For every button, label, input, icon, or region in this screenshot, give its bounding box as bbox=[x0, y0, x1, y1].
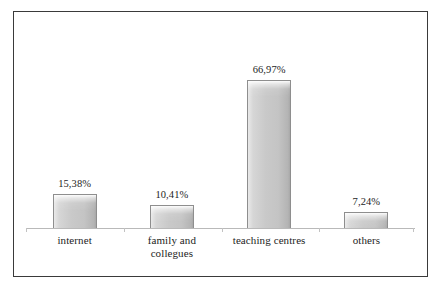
axis-tick-2 bbox=[124, 228, 125, 232]
chart-frame-border: 15,38% 10,41% 66,97% 7,24% bbox=[13, 11, 428, 277]
axis-tick-1 bbox=[26, 228, 27, 232]
category-label-others: others bbox=[318, 234, 415, 260]
bar-rect-others[interactable] bbox=[344, 212, 388, 228]
bar-group-teaching-centres[interactable]: 66,97% bbox=[221, 12, 318, 228]
bar-value-label-others: 7,24% bbox=[353, 196, 381, 208]
category-label-family-and-collegues: family and collegues bbox=[123, 234, 220, 260]
category-label-family-and-collegues-line-2: collegues bbox=[123, 247, 220, 260]
bar-value-label-teaching-centres: 66,97% bbox=[253, 64, 286, 76]
bar-rect-internet[interactable] bbox=[53, 194, 97, 228]
bar-value-label-internet: 15,38% bbox=[58, 178, 91, 190]
category-axis-line bbox=[26, 228, 415, 229]
axis-tick-4 bbox=[319, 228, 320, 232]
axis-tick-5 bbox=[413, 228, 414, 232]
category-labels-row: internet family and collegues teaching c… bbox=[26, 234, 415, 260]
bar-group-others[interactable]: 7,24% bbox=[318, 12, 415, 228]
plot-area: 15,38% 10,41% 66,97% 7,24% bbox=[14, 12, 427, 276]
category-label-internet: internet bbox=[26, 234, 123, 260]
category-label-others-line-1: others bbox=[318, 234, 415, 247]
axis-tick-3 bbox=[222, 228, 223, 232]
bar-rect-family-and-collegues[interactable] bbox=[150, 205, 194, 228]
category-label-teaching-centres-line-1: teaching centres bbox=[221, 234, 318, 247]
category-label-internet-line-1: internet bbox=[26, 234, 123, 247]
bar-group-internet[interactable]: 15,38% bbox=[26, 12, 123, 228]
bar-value-label-family-and-collegues: 10,41% bbox=[155, 189, 188, 201]
bar-chart-figure: 15,38% 10,41% 66,97% 7,24% bbox=[0, 0, 442, 293]
category-label-teaching-centres: teaching centres bbox=[221, 234, 318, 260]
bar-rect-teaching-centres[interactable] bbox=[247, 80, 291, 228]
bar-group-family-and-collegues[interactable]: 10,41% bbox=[123, 12, 220, 228]
category-label-family-and-collegues-line-1: family and bbox=[123, 234, 220, 247]
bars-row: 15,38% 10,41% 66,97% 7,24% bbox=[26, 12, 415, 228]
